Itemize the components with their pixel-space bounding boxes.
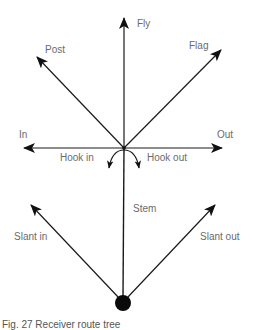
label-in: In xyxy=(19,130,27,140)
label-hook-in: Hook in xyxy=(60,153,94,163)
slant-in-route-arrow xyxy=(31,205,119,298)
stem-route xyxy=(123,148,124,296)
label-hook-out: Hook out xyxy=(147,153,187,163)
football-ball-icon xyxy=(115,295,131,311)
hook-out-route-arrow xyxy=(124,150,139,168)
slant-out-route-arrow xyxy=(127,205,215,298)
label-slant-in: Slant in xyxy=(14,232,47,242)
hook-in-route-arrow xyxy=(109,150,124,168)
figure-caption: Fig. 27 Receiver route tree xyxy=(2,320,120,330)
label-post: Post xyxy=(45,45,65,55)
label-out: Out xyxy=(217,130,233,140)
post-route-arrow xyxy=(37,57,124,148)
label-slant-out: Slant out xyxy=(200,232,239,242)
label-fly: Fly xyxy=(137,19,150,29)
label-flag: Flag xyxy=(189,41,208,51)
label-stem: Stem xyxy=(133,204,156,214)
flag-route-arrow xyxy=(124,50,221,148)
break-point-dot xyxy=(122,146,126,150)
